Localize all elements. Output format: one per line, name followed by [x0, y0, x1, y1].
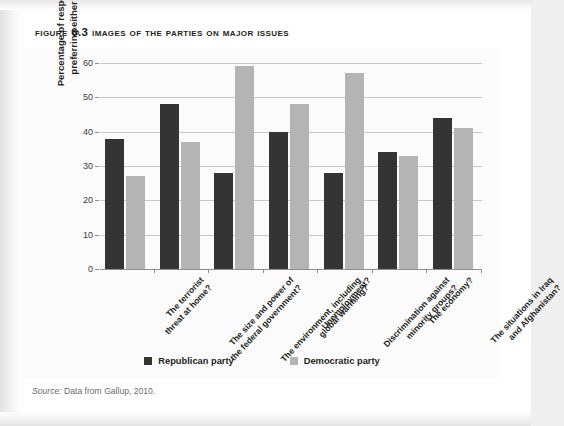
- bar-group: [373, 63, 428, 269]
- bar-democratic: [454, 128, 473, 269]
- y-axis-title: Percentage of respondents preferring eit…: [54, 0, 80, 100]
- bar-democratic: [235, 66, 254, 269]
- bar-republican: [105, 139, 124, 269]
- bar-group: [318, 63, 373, 269]
- bar-republican: [378, 152, 397, 269]
- plot-area: 0102030405060: [100, 63, 482, 269]
- y-tick-label-50: 50: [83, 92, 93, 102]
- republican-swatch-icon: [144, 357, 152, 365]
- y-tick-label-40: 40: [83, 127, 93, 137]
- bar-democratic: [290, 104, 309, 269]
- democratic-swatch-icon: [290, 357, 298, 365]
- y-tick-label-0: 0: [88, 264, 93, 274]
- x-tick-mark: [481, 269, 482, 273]
- page-edge-shadow-left: [0, 0, 22, 426]
- bar-democratic: [181, 142, 200, 269]
- source-note: Source: Data from Gallup, 2010.: [32, 386, 155, 396]
- source-text: Data from Gallup, 2010.: [62, 386, 156, 396]
- bar-republican: [269, 132, 288, 269]
- legend-item: Republican party: [144, 356, 233, 366]
- x-tick-mark: [263, 269, 264, 273]
- gridline-0: [100, 269, 482, 270]
- y-tick-label-30: 30: [83, 161, 93, 171]
- y-tick-mark-50: [95, 97, 99, 98]
- chart-panel: Percentage of respondents preferring eit…: [24, 48, 500, 378]
- x-axis-label: Discrimination againstminority groups?: [381, 275, 460, 357]
- bar-group: [264, 63, 319, 269]
- y-tick-label-60: 60: [83, 58, 93, 68]
- bar-democratic: [345, 73, 364, 269]
- source-label: Source:: [32, 386, 62, 396]
- x-tick-mark: [426, 269, 427, 273]
- bar-group: [155, 63, 210, 269]
- legend-item: Democratic party: [290, 356, 380, 366]
- bar-republican: [433, 118, 452, 269]
- legend-label: Democratic party: [304, 356, 380, 366]
- bar-group: [427, 63, 482, 269]
- bar-group: [209, 63, 264, 269]
- x-tick-mark: [372, 269, 373, 273]
- x-tick-mark: [317, 269, 318, 273]
- x-tick-mark: [208, 269, 209, 273]
- y-tick-mark-20: [95, 200, 99, 201]
- legend-label: Republican party: [158, 356, 233, 366]
- bar-democratic: [399, 156, 418, 269]
- y-tick-mark-10: [95, 235, 99, 236]
- x-axis-label: The situations in Iraqand Afghanistan?: [489, 275, 564, 353]
- y-tick-mark-40: [95, 132, 99, 133]
- y-tick-label-10: 10: [83, 230, 93, 240]
- page-edge-shadow-bottom: [0, 412, 531, 426]
- bar-group: [100, 63, 155, 269]
- y-tick-mark-60: [95, 63, 99, 64]
- bar-republican: [324, 173, 343, 269]
- y-tick-mark-30: [95, 166, 99, 167]
- bar-republican: [160, 104, 179, 269]
- bar-republican: [214, 173, 233, 269]
- y-tick-mark-0: [95, 269, 99, 270]
- x-axis-label: The terroristthreat at home?: [154, 275, 214, 337]
- chart-legend: Republican partyDemocratic party: [24, 356, 500, 366]
- x-tick-mark: [154, 269, 155, 273]
- bar-democratic: [126, 176, 145, 269]
- y-tick-label-20: 20: [83, 195, 93, 205]
